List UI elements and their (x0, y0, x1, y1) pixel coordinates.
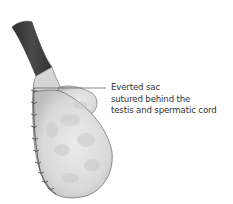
annotation-line-3: testis and spermatic cord (111, 105, 217, 117)
annotation-line-1: Everted sac (111, 82, 217, 94)
annotation-line-2: sutured behind the (111, 94, 217, 106)
diagram: Everted sac sutured behind the testis an… (0, 0, 233, 204)
annotation-label: Everted sac sutured behind the testis an… (111, 82, 217, 117)
spermatic-cord (12, 21, 52, 76)
